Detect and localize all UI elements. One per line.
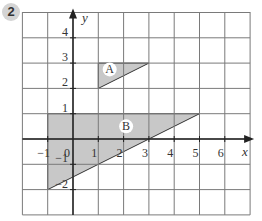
- x-axis-arrow-icon: [244, 135, 254, 143]
- y-tick-label: 1: [62, 101, 68, 115]
- y-tick-label: −1: [55, 151, 68, 165]
- x-tick-label: 2: [117, 146, 123, 160]
- y-tick-label: 2: [62, 75, 68, 89]
- y-tick-label: −2: [55, 177, 68, 191]
- x-tick-label: 6: [218, 146, 224, 160]
- x-tick-label: 1: [91, 146, 97, 160]
- x-tick-label: 3: [142, 146, 148, 160]
- y-tick-label: 4: [62, 25, 68, 39]
- y-axis-label: y: [80, 10, 88, 25]
- x-tick-label: 4: [167, 146, 173, 160]
- y-axis-arrow-icon: [69, 9, 77, 19]
- y-tick-label: 3: [62, 50, 68, 64]
- coordinate-grid: −112345604321−1−2xyAB: [0, 0, 262, 221]
- shape-label-b: B: [122, 119, 130, 133]
- x-tick-label: 5: [193, 146, 199, 160]
- shape-label-a: A: [105, 62, 114, 76]
- x-axis-label: x: [241, 144, 248, 159]
- x-tick-label: −1: [37, 146, 50, 160]
